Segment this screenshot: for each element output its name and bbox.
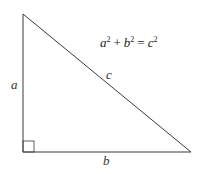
- side-b-label: b: [103, 153, 110, 168]
- right-angle-marker: [23, 141, 34, 152]
- pythagorean-equation: a2+b2=c2: [100, 35, 157, 50]
- side-a-label: a: [11, 77, 18, 92]
- pythagorean-diagram: a b c a2+b2=c2: [0, 0, 200, 174]
- side-c-label: c: [106, 67, 112, 82]
